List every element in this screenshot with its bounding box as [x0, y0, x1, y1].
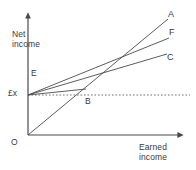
curve-line-a	[28, 19, 168, 135]
x-axis-label-line1: Earned	[139, 142, 167, 152]
y-axis-label-line2: income	[12, 39, 40, 49]
curve-line-f	[28, 38, 169, 95]
curve-label-f: F	[169, 28, 175, 38]
curve-label-c: C	[167, 53, 174, 63]
x-axis-label-line2: income	[139, 152, 167, 162]
x-axis-label: Earnedincome	[139, 142, 167, 162]
point-label-e: E	[31, 69, 37, 79]
curve-label-a: A	[168, 10, 174, 20]
point-label-b: B	[85, 97, 91, 107]
y-axis-tick-label-fx: £x	[8, 89, 17, 99]
chart-container: Netincome Earnedincome £x O E B A F C	[0, 0, 196, 170]
y-axis-label-line1: Net	[12, 29, 26, 39]
curve-line-c	[28, 54, 167, 95]
origin-label: O	[11, 138, 18, 148]
y-axis-label: Netincome	[12, 29, 40, 49]
